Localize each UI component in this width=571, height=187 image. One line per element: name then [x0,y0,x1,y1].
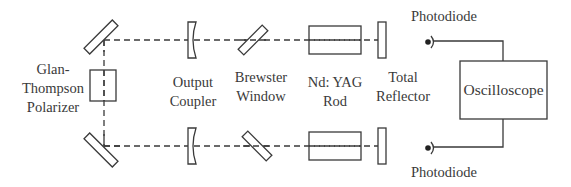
yag-rod-label-line1: Nd: YAG [297,73,373,92]
yag-rod-label-line2: Rod [297,92,373,111]
total-reflector-bottom [378,128,386,164]
total-reflector-label-line1: Total [368,68,438,87]
polarizer-label: Glan- Thompson Polarizer [18,60,88,117]
photodiode-bottom-icon [425,142,433,154]
glan-thompson-polarizer [90,70,116,101]
polarizer-label-line2: Thompson [18,79,88,98]
yag-rod-label: Nd: YAG Rod [297,73,373,111]
photodiode-top-label: Photodiode [404,7,484,26]
wire-top [433,41,503,61]
top-fold-mirror [84,20,118,54]
output-coupler-label: Output Coupler [160,73,226,111]
total-reflector-top [378,22,386,58]
total-reflector-label: Total Reflector [368,68,438,106]
polarizer-label-line3: Polarizer [18,98,88,117]
brewster-window-label: Brewster Window [226,68,296,106]
photodiode-bottom-label: Photodiode [404,163,484,182]
oscilloscope-label: Oscilloscope [460,80,547,99]
polarizer-label-line1: Glan- [18,60,88,79]
brewster-window-label-line2: Window [226,87,296,106]
photodiode-top-icon [425,36,433,48]
output-coupler-label-line1: Output [160,73,226,92]
brewster-window-label-line1: Brewster [226,68,296,87]
bottom-fold-mirror [84,133,118,167]
output-coupler-label-line2: Coupler [160,92,226,111]
total-reflector-label-line2: Reflector [368,87,438,106]
wire-bottom [433,119,503,147]
